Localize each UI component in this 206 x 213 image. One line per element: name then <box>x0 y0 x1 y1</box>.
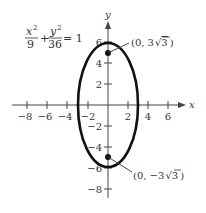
y-axis-arrow-icon <box>105 21 111 29</box>
equation: x 2 9 + y 2 36 = 1 <box>25 24 83 51</box>
x-tick-label: 6 <box>165 111 171 122</box>
x-tick-label: −4 <box>58 111 73 122</box>
y-tick-label: 2 <box>96 79 102 90</box>
y-tick-label: −8 <box>87 184 102 195</box>
x-axis-arrow-icon <box>178 102 186 108</box>
eq-x-den: 9 <box>27 38 34 51</box>
leader-line-bottom <box>108 157 132 172</box>
annotation-top: (0, 3√3) <box>131 37 174 48</box>
ellipse-graph: x y −8 −6 −4 −2 2 4 6 6 4 2 −2 −4 −6 <box>0 0 206 213</box>
eq-x-exp: 2 <box>33 24 37 32</box>
y-tick-label: −2 <box>87 121 102 132</box>
eq-y-num: y <box>49 25 57 38</box>
eq-y-den: 36 <box>48 38 62 51</box>
x-axis-label: x <box>189 99 195 110</box>
eq-y-exp: 2 <box>57 24 61 32</box>
x-tick-label: 2 <box>125 111 131 122</box>
x-tick-label: −8 <box>18 111 33 122</box>
y-tick-label: 4 <box>96 58 102 69</box>
x-tick-label: 4 <box>145 111 151 122</box>
annotation-bottom: (0, −3√3) <box>133 170 184 181</box>
eq-x-num: x <box>26 25 33 38</box>
eq-rhs: = 1 <box>63 32 83 45</box>
x-tick-label: −6 <box>38 111 53 122</box>
y-axis-label: y <box>104 9 111 20</box>
